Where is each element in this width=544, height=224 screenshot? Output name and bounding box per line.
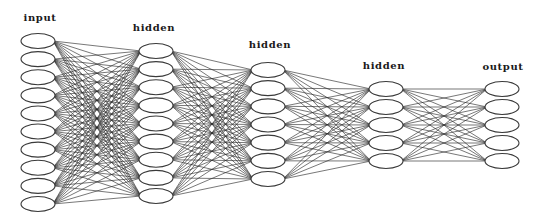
neuron-node xyxy=(369,100,403,115)
layer-label-output: output xyxy=(482,62,523,72)
neuron-node xyxy=(21,124,55,139)
neuron-node xyxy=(21,106,55,121)
neuron-node xyxy=(251,135,285,150)
connection-line xyxy=(171,106,253,196)
neuron-node xyxy=(251,153,285,168)
neuron-node xyxy=(251,81,285,96)
neuron-node xyxy=(139,98,173,113)
neuron-node xyxy=(251,172,285,187)
neuron-node xyxy=(139,44,173,59)
neuron-node xyxy=(485,82,519,97)
connection-line xyxy=(171,179,253,196)
neuron-node xyxy=(251,117,285,132)
neuron-node xyxy=(369,118,403,133)
neuron-node xyxy=(139,134,173,149)
neuron-node xyxy=(485,154,519,169)
layer-label-hidden-2: hidden xyxy=(249,40,291,50)
neuron-node xyxy=(21,34,55,49)
neuron-node xyxy=(139,170,173,185)
neuron-node xyxy=(21,142,55,157)
connection-line xyxy=(283,125,371,179)
neuron-node xyxy=(21,197,55,212)
layer-label-input: input xyxy=(24,13,57,23)
connection-line xyxy=(171,70,253,160)
neuron-node xyxy=(139,116,173,131)
neuron-node xyxy=(251,63,285,78)
network-canvas xyxy=(0,0,544,224)
neuron-node xyxy=(139,80,173,95)
connection-line xyxy=(283,88,371,89)
neuron-node xyxy=(21,70,55,85)
neuron-node xyxy=(485,118,519,133)
neuron-node xyxy=(485,136,519,151)
neuron-node xyxy=(139,62,173,77)
connection-line xyxy=(283,89,371,106)
connection-line xyxy=(171,70,253,196)
neuron-node xyxy=(369,82,403,97)
connection-line xyxy=(171,70,253,87)
neuron-node xyxy=(21,52,55,67)
connection-line xyxy=(53,41,141,51)
connection-line xyxy=(283,89,371,179)
layer-label-hidden-1: hidden xyxy=(133,23,175,33)
neuron-node xyxy=(21,178,55,193)
connection-line xyxy=(283,70,371,89)
neuron-node xyxy=(21,88,55,103)
neuron-node xyxy=(485,100,519,115)
neuron-node xyxy=(369,154,403,169)
neuron-node xyxy=(21,160,55,175)
connection-line xyxy=(283,161,371,179)
neuron-node xyxy=(139,152,173,167)
neuron-node xyxy=(251,99,285,114)
neuron-node xyxy=(369,136,403,151)
layer-label-hidden-3: hidden xyxy=(363,61,405,71)
neuron-node xyxy=(139,189,173,204)
neuron-nodes xyxy=(21,34,519,212)
